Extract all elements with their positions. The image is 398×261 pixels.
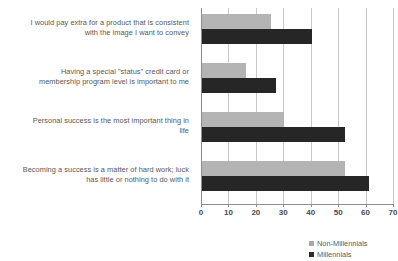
x-axis-tick-label: 10 <box>214 208 242 217</box>
bar-chart: I would pay extra for a product that is … <box>0 0 398 261</box>
bar-millennials <box>202 78 276 93</box>
bar-non-millennials <box>202 112 284 127</box>
category-label: Having a special "status" credit card or… <box>3 67 189 86</box>
legend-swatch-icon <box>309 252 314 257</box>
gridline <box>393 8 394 204</box>
bar-non-millennials <box>202 161 345 176</box>
bar-millennials <box>202 29 312 44</box>
category-label-column: I would pay extra for a product that is … <box>0 8 193 204</box>
x-axis-tick <box>338 204 339 207</box>
x-axis-tick <box>283 204 284 207</box>
legend: Non-Millennials Millennials <box>309 238 397 260</box>
x-axis-tick-label: 40 <box>297 208 325 217</box>
legend-item-millennials: Millennials <box>309 249 397 259</box>
legend-swatch-icon <box>309 241 314 246</box>
category-label-line: Becoming a success is a matter of hard w… <box>3 165 189 175</box>
gridline <box>366 8 367 204</box>
category-label-line: I would pay extra for a product that is … <box>3 18 189 28</box>
category-label-line: Personal success is the most important t… <box>3 116 189 126</box>
x-axis-tick-label: 30 <box>269 208 297 217</box>
x-axis-tick <box>256 204 257 207</box>
category-label-line: membership program level is important to… <box>3 77 189 87</box>
category-label-line: has little or nothing to do with it <box>3 175 189 185</box>
legend-item-non-millennials: Non-Millennials <box>309 238 397 248</box>
category-label: I would pay extra for a product that is … <box>3 18 189 37</box>
category-label-line: life <box>3 126 189 136</box>
x-axis-tick-label: 60 <box>352 208 380 217</box>
legend-label: Millennials <box>317 250 352 259</box>
x-axis-tick <box>228 204 229 207</box>
x-axis-line <box>201 204 393 205</box>
x-axis-tick <box>366 204 367 207</box>
category-label-line: with the image I want to convey <box>3 28 189 38</box>
x-axis-tick <box>311 204 312 207</box>
x-axis-tick-label: 0 <box>187 208 215 217</box>
legend-label: Non-Millennials <box>317 239 368 248</box>
bar-non-millennials <box>202 63 246 78</box>
category-label-line: Having a special "status" credit card or <box>3 67 189 77</box>
x-axis-tick-label: 50 <box>324 208 352 217</box>
x-axis-tick-label: 20 <box>242 208 270 217</box>
x-axis-tick <box>201 204 202 207</box>
plot-area <box>201 8 393 204</box>
bar-non-millennials <box>202 14 271 29</box>
category-label: Personal success is the most important t… <box>3 116 189 135</box>
x-axis-tick <box>393 204 394 207</box>
x-axis-tick-label: 70 <box>379 208 398 217</box>
bar-millennials <box>202 127 345 142</box>
category-label: Becoming a success is a matter of hard w… <box>3 165 189 184</box>
bar-millennials <box>202 176 369 191</box>
